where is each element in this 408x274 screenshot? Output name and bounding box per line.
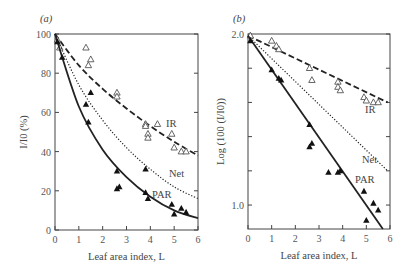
- y-tick-label: 40: [41, 147, 51, 158]
- y-tick-label: 80: [41, 68, 51, 79]
- x-tick-label: 0: [53, 234, 58, 245]
- x-tick-label: 3: [317, 233, 322, 244]
- x-tick-label: 2: [293, 233, 298, 244]
- x-tick-label: 5: [172, 234, 177, 245]
- annotation-ir: IR: [365, 104, 376, 115]
- x-tick-label: 4: [148, 234, 153, 245]
- y-axis-label: I/I0 (%): [18, 115, 30, 149]
- x-tick-label: 0: [246, 233, 251, 244]
- chart-figure: (a)0123456020406080100Leaf area index, L…: [0, 0, 408, 274]
- marker-par: [169, 201, 175, 207]
- curve-ir: [55, 34, 198, 156]
- marker-par: [325, 169, 331, 175]
- y-tick-label: 0: [46, 225, 51, 236]
- x-tick-label: 2: [100, 234, 105, 245]
- x-tick-label: 6: [388, 233, 393, 244]
- annotation-net: Net: [362, 154, 377, 165]
- marker-par: [375, 207, 381, 213]
- marker-ir: [309, 77, 315, 83]
- y-tick-label: 2.0: [232, 29, 245, 40]
- marker-ir: [171, 144, 177, 150]
- marker-ir: [268, 37, 274, 43]
- curve-par: [248, 36, 383, 229]
- annotation-ir: IR: [166, 118, 177, 129]
- panel-a: (a)0123456020406080100Leaf area index, L…: [18, 13, 201, 262]
- x-tick-label: 1: [269, 233, 274, 244]
- curve-par: [55, 34, 198, 218]
- annotation-par: PAR: [152, 189, 171, 200]
- y-tick-label: 1.0: [232, 200, 245, 211]
- panel-label: (a): [40, 13, 53, 25]
- marker-par: [178, 205, 184, 211]
- y-tick-label: 100: [36, 29, 51, 40]
- axes-frame: [248, 34, 390, 229]
- annotation-par: PAR: [355, 174, 374, 185]
- x-tick-label: 5: [364, 233, 369, 244]
- x-axis-label: Leaf area index, L: [88, 251, 165, 262]
- x-tick-label: 1: [76, 234, 81, 245]
- marker-par: [363, 217, 369, 223]
- marker-ir: [85, 62, 91, 68]
- x-tick-label: 6: [196, 234, 201, 245]
- marker-par: [361, 188, 367, 194]
- marker-ir: [169, 130, 175, 136]
- panel-label: (b): [233, 13, 246, 25]
- curve-ir: [248, 36, 388, 103]
- marker-ir: [183, 148, 189, 154]
- marker-par: [83, 101, 89, 107]
- marker-par: [88, 89, 94, 95]
- marker-par: [59, 54, 65, 60]
- x-tick-label: 3: [124, 234, 129, 245]
- marker-ir: [154, 121, 160, 127]
- y-tick-label: 60: [41, 107, 51, 118]
- marker-ir: [88, 56, 94, 62]
- y-axis-label: Log (100 (I/I0)): [215, 97, 227, 165]
- marker-ir: [83, 44, 89, 50]
- annotation-net: Net: [169, 168, 184, 179]
- x-tick-label: 4: [340, 233, 345, 244]
- x-axis-label: Leaf area index, L: [281, 250, 358, 261]
- panel-b: (b)01234561.02.0Leaf area index, LLog (1…: [215, 13, 393, 261]
- marker-par: [309, 140, 315, 146]
- marker-par: [142, 166, 148, 172]
- marker-par: [370, 200, 376, 206]
- marker-ir: [306, 65, 312, 71]
- y-tick-label: 20: [41, 186, 51, 197]
